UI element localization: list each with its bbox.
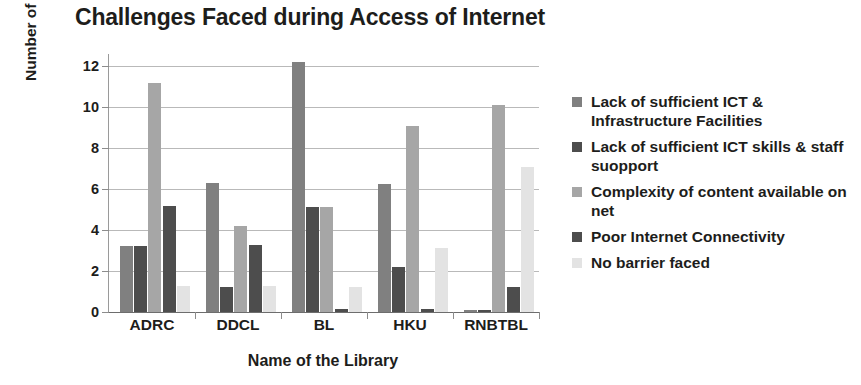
bar[interactable] bbox=[406, 126, 419, 312]
bar-group bbox=[464, 54, 534, 312]
y-tick-label: 8 bbox=[91, 140, 99, 156]
bar-group bbox=[292, 54, 362, 312]
bar[interactable] bbox=[378, 184, 391, 312]
bar-group bbox=[120, 54, 190, 312]
legend-item[interactable]: Lack of sufficient ICT skills & staff su… bbox=[572, 137, 857, 175]
x-axis-label-bl: BL bbox=[314, 316, 335, 334]
bar[interactable] bbox=[292, 62, 305, 312]
bar[interactable] bbox=[206, 183, 219, 312]
legend-label: Complexity of content available on net bbox=[591, 182, 857, 220]
bar[interactable] bbox=[249, 245, 262, 312]
y-tick-label: 10 bbox=[83, 99, 99, 115]
legend-label: Lack of sufficient ICT & Infrastructure … bbox=[591, 92, 857, 130]
bar[interactable] bbox=[478, 310, 491, 312]
x-tick-mark bbox=[367, 312, 368, 319]
bar-group bbox=[206, 54, 276, 312]
plot-area: 024681012 ADRCDDCLBLHKURNBTBL bbox=[108, 54, 539, 313]
x-axis-label-rnbtbl: RNBTBL bbox=[464, 316, 528, 334]
bar[interactable] bbox=[120, 246, 133, 312]
legend-swatch-icon bbox=[572, 97, 582, 107]
y-tick-mark bbox=[102, 148, 109, 149]
bar[interactable] bbox=[148, 83, 161, 312]
x-tick-mark bbox=[281, 312, 282, 319]
x-tick-mark bbox=[539, 312, 540, 319]
x-tick-mark bbox=[453, 312, 454, 319]
bar[interactable] bbox=[177, 286, 190, 312]
chart-figure: Challenges Faced during Access of Intern… bbox=[0, 0, 861, 385]
y-tick-label: 6 bbox=[91, 181, 99, 197]
y-tick-mark bbox=[102, 312, 109, 313]
x-axis-label-hku: HKU bbox=[393, 316, 427, 334]
legend-swatch-icon bbox=[572, 232, 582, 242]
legend-item[interactable]: No barrier faced bbox=[572, 253, 857, 272]
chart-title: Challenges Faced during Access of Intern… bbox=[0, 4, 620, 31]
legend-label: Poor Internet Connectivity bbox=[591, 227, 785, 246]
bar[interactable] bbox=[521, 167, 534, 312]
bar[interactable] bbox=[349, 287, 362, 312]
legend-swatch-icon bbox=[572, 142, 582, 152]
x-tick-mark bbox=[195, 312, 196, 319]
bar[interactable] bbox=[134, 246, 147, 312]
bar[interactable] bbox=[464, 310, 477, 312]
legend-swatch-icon bbox=[572, 258, 582, 268]
y-tick-mark bbox=[102, 230, 109, 231]
legend-item[interactable]: Complexity of content available on net bbox=[572, 182, 857, 220]
y-tick-mark bbox=[102, 66, 109, 67]
chart-legend: Lack of sufficient ICT & Infrastructure … bbox=[572, 92, 857, 279]
y-tick-mark bbox=[102, 271, 109, 272]
y-tick-label: 2 bbox=[91, 263, 99, 279]
y-tick-label: 12 bbox=[83, 58, 99, 74]
bar[interactable] bbox=[435, 248, 448, 313]
bar[interactable] bbox=[507, 287, 520, 312]
bar[interactable] bbox=[220, 287, 233, 312]
bar[interactable] bbox=[234, 226, 247, 312]
y-axis-title: Number of Respondents bbox=[22, 0, 44, 106]
bar[interactable] bbox=[263, 286, 276, 312]
legend-label: No barrier faced bbox=[591, 253, 710, 272]
bar[interactable] bbox=[421, 309, 434, 312]
y-tick-label: 4 bbox=[91, 222, 99, 238]
bar[interactable] bbox=[163, 206, 176, 312]
bar[interactable] bbox=[392, 267, 405, 312]
legend-item[interactable]: Lack of sufficient ICT & Infrastructure … bbox=[572, 92, 857, 130]
x-axis-title: Name of the Library bbox=[108, 352, 538, 370]
x-axis-label-adrc: ADRC bbox=[130, 316, 175, 334]
bar[interactable] bbox=[320, 207, 333, 312]
legend-label: Lack of sufficient ICT skills & staff su… bbox=[591, 137, 857, 175]
bar[interactable] bbox=[306, 207, 319, 312]
y-tick-mark bbox=[102, 107, 109, 108]
legend-swatch-icon bbox=[572, 187, 582, 197]
legend-item[interactable]: Poor Internet Connectivity bbox=[572, 227, 857, 246]
x-axis-label-ddcl: DDCL bbox=[216, 316, 259, 334]
bar[interactable] bbox=[492, 105, 505, 312]
bar[interactable] bbox=[335, 309, 348, 312]
y-tick-label: 0 bbox=[91, 304, 99, 320]
y-tick-mark bbox=[102, 189, 109, 190]
bar-group bbox=[378, 54, 448, 312]
